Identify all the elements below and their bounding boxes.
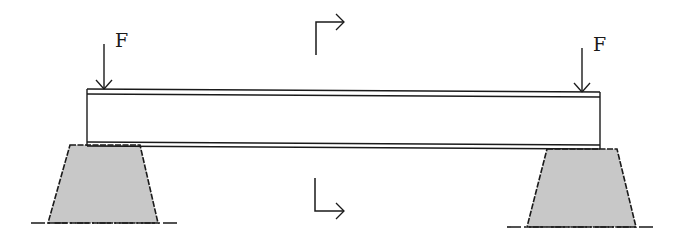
diagram-svg <box>0 0 693 238</box>
left-support <box>31 145 178 223</box>
right-force-arrow-icon <box>574 48 590 92</box>
right-force-label: F <box>593 35 606 54</box>
right-support <box>507 149 656 227</box>
beam <box>87 89 600 149</box>
section-marker-bottom-icon <box>315 178 344 219</box>
beam-diagram: F F <box>0 0 693 238</box>
left-force-arrow-icon <box>96 44 112 89</box>
section-marker-top-icon <box>316 14 344 55</box>
left-force-label: F <box>115 31 128 50</box>
